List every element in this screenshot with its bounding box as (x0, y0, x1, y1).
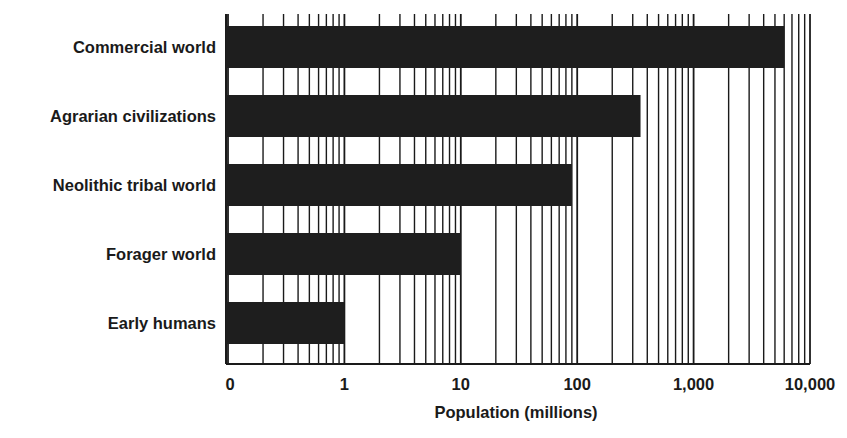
bar-neolithic-tribal-world (226, 164, 572, 206)
x-tick-label: 100 (563, 375, 591, 393)
bar-early-humans (226, 302, 344, 344)
x-axis-title: Population (millions) (434, 403, 597, 421)
category-label: Commercial world (73, 38, 216, 56)
category-label: Early humans (108, 314, 216, 332)
x-tick-label: 10,000 (785, 375, 835, 393)
x-tick-label: 10 (452, 375, 470, 393)
x-tick-labels: 01101001,00010,000 (225, 375, 835, 393)
category-label: Agrarian civilizations (50, 107, 216, 125)
population-bar-chart: Commercial worldAgrarian civilizationsNe… (0, 0, 847, 438)
x-tick-label: 0 (225, 375, 234, 393)
bar-commercial-world (226, 26, 784, 68)
category-labels: Commercial worldAgrarian civilizationsNe… (50, 38, 216, 332)
category-label: Neolithic tribal world (53, 176, 216, 194)
x-tick-label: 1 (340, 375, 349, 393)
category-label: Forager world (106, 245, 216, 263)
bar-forager-world (226, 233, 461, 275)
bar-agrarian-civilizations (226, 95, 641, 137)
x-tick-label: 1,000 (673, 375, 714, 393)
